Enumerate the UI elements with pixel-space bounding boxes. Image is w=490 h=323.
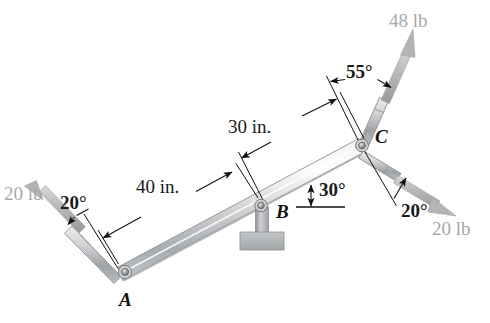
angle-c-ref-line (327, 76, 359, 140)
bar-shadow-edge (124, 152, 367, 281)
force-arrow-c-upper (381, 29, 415, 104)
angle-label-bar-30: 30° (319, 180, 346, 199)
bar-highlight (120, 145, 362, 274)
support-b-base (240, 232, 284, 250)
angle-55-tick-left (331, 80, 346, 82)
dim-arrow-right-30in (302, 99, 337, 116)
angle-c-lower-ref-line (365, 152, 397, 206)
point-label-c: C (375, 127, 388, 146)
force-label-c-lower: 20 lb (432, 219, 471, 238)
angle-label-55: 55° (346, 62, 373, 81)
point-label-b: B (276, 202, 289, 221)
ext-line-c-30in (340, 92, 364, 139)
force-c-lower-head (428, 197, 456, 216)
pin-b (255, 199, 267, 211)
point-label-a: A (119, 290, 132, 309)
dim-arrow-right-40in (196, 172, 232, 192)
dim-arrow-left-40in (103, 217, 141, 238)
force-label-c-upper: 48 lb (389, 11, 428, 30)
angle-label-20-c: 20° (401, 201, 428, 220)
diagram-canvas (0, 0, 490, 323)
dimension-label-40in: 40 in. (136, 177, 179, 196)
dimension-label-30in: 30 in. (228, 117, 271, 136)
force-label-a: 20 lb (4, 184, 43, 203)
engineering-diagram: 20 lb 20° 40 in. 30 in. 30° 55° 48 lb 20… (0, 0, 490, 323)
ext-line-b-30in (239, 152, 263, 199)
pin-c (356, 139, 369, 152)
pin-a (118, 265, 131, 278)
dim-arrow-left-30in (242, 142, 272, 158)
angle-label-a: 20° (60, 193, 87, 212)
force-c-upper-head (401, 29, 416, 58)
